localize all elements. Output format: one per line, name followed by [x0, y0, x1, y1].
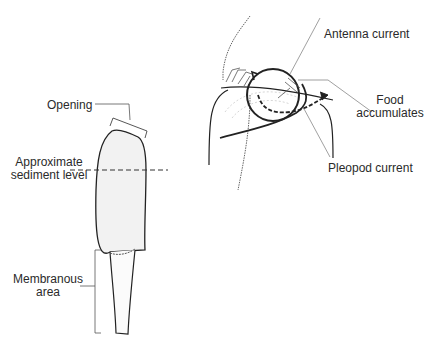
sediment-level-label-line2: sediment level: [6, 169, 92, 182]
tube-drawing: [70, 104, 168, 334]
opening-label: Opening: [47, 99, 92, 112]
sediment-level-label: Approximate sediment level: [6, 156, 92, 182]
membranous-area-label: Membranous area: [12, 273, 84, 299]
antenna-current-label: Antenna current: [324, 28, 409, 41]
animal-drawing: [209, 16, 333, 190]
food-accumulates-label: Food accumulates: [350, 94, 430, 120]
membranous-area-label-line2: area: [12, 286, 84, 299]
pleopod-current-label: Pleopod current: [328, 162, 413, 175]
food-accumulates-label-line2: accumulates: [350, 107, 430, 120]
